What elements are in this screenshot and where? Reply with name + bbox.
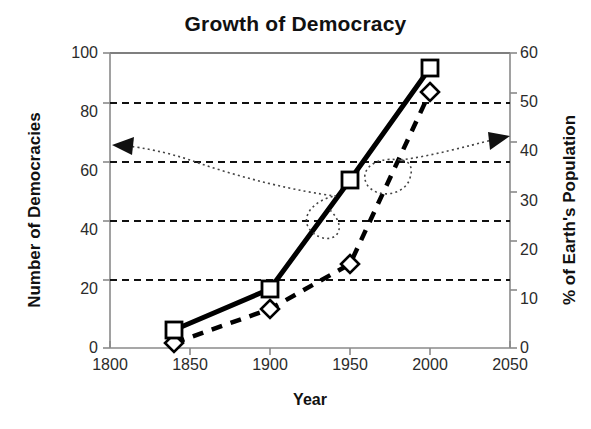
marker-square-1950	[342, 172, 358, 188]
marker-diamond-1900	[261, 300, 279, 318]
marker-square-1840	[166, 322, 182, 338]
series-democracies-line	[174, 68, 430, 330]
chart-figure: Growth of Democracy Number of Democracie…	[0, 0, 591, 429]
y-right-ticks	[510, 53, 517, 348]
marker-square-1900	[262, 281, 278, 297]
arrowhead-right	[488, 132, 510, 150]
y-left-ticks	[103, 53, 110, 348]
arrow-to-left-axis	[112, 137, 339, 238]
axis-lines	[110, 53, 510, 348]
plot-canvas	[0, 0, 591, 429]
series-population-line	[174, 92, 430, 343]
marker-diamond-2000	[421, 83, 439, 101]
marker-diamond-1950	[341, 255, 359, 273]
series-democracies-markers	[166, 60, 438, 338]
marker-square-2000	[422, 60, 438, 76]
arrowhead-left	[112, 137, 134, 155]
series-population-markers	[165, 83, 439, 352]
